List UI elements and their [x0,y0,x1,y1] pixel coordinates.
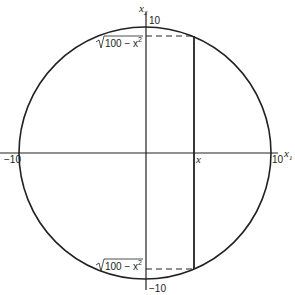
svg-text:100 − x2: 100 − x2 [105,259,142,272]
y-max-tick: 10 [149,15,161,26]
svg-text:100 − x2: 100 − x2 [105,36,142,49]
x-point-label: x [195,153,201,165]
x-max-tick: 10 [272,154,284,165]
bottom-expression: 100 − x2 [96,259,143,272]
x-min-tick: −10 [4,154,21,165]
y-min-tick: −10 [149,283,166,294]
circle-diagram: x2 10 −10 −10 10 x1 x 100 − x2 100 − x2 [0,0,295,295]
x2-axis-label: x2 [138,2,148,17]
x1-axis-label: x1 [283,147,292,162]
top-expression: 100 − x2 [96,36,143,49]
